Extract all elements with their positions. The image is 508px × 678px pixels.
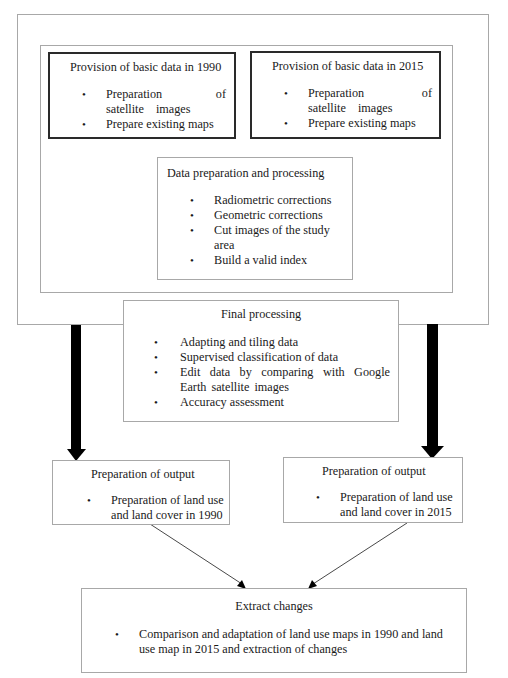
- output-1990-box: Preparation of output • Preparation of l…: [52, 460, 230, 525]
- output-1990-title: Preparation of output: [91, 467, 195, 482]
- list-item: • Comparison and adaptation of land use …: [115, 627, 459, 657]
- output-1990-list: • Preparation of land use and land cover…: [87, 493, 227, 523]
- bullet-icon: •: [87, 493, 91, 508]
- connector-arrows: [0, 0, 508, 678]
- extract-changes-title: Extract changes: [82, 599, 466, 614]
- list-item: • Preparation of land use and land cover…: [316, 490, 458, 520]
- list-item: • Preparation of land use and land cover…: [87, 493, 227, 523]
- output-2015-list: • Preparation of land use and land cover…: [316, 490, 458, 520]
- output-2015-box: Preparation of output • Preparation of l…: [283, 457, 463, 523]
- extract-changes-box: Extract changes • Comparison and adaptat…: [81, 588, 467, 673]
- bullet-icon: •: [316, 490, 320, 505]
- output-2015-title: Preparation of output: [322, 464, 426, 479]
- bullet-icon: •: [115, 627, 119, 642]
- extract-changes-list: • Comparison and adaptation of land use …: [115, 627, 459, 657]
